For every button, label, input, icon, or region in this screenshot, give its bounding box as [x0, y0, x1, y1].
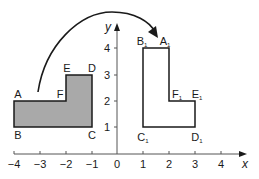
vertex-label-f: F — [57, 88, 64, 100]
y-axis: 1 2 3 4 y — [104, 20, 120, 154]
vertex-label-e: E — [63, 62, 70, 74]
y-tick-label: 1 — [104, 121, 110, 133]
x-tick-label: 4 — [218, 158, 224, 170]
x-tick-label: 1 — [140, 158, 146, 170]
vertex-label-d: D — [88, 62, 96, 74]
vertex-label-a1: A1 — [160, 35, 171, 48]
x-tick-label: −1 — [86, 158, 99, 170]
y-tick-label: 3 — [104, 69, 110, 81]
x-tick-label: −3 — [34, 158, 47, 170]
vertex-label-c: C — [88, 129, 96, 141]
transformation-arrow — [38, 12, 158, 92]
x-axis: −4 −3 −2 −1 0 1 2 3 4 x — [8, 151, 249, 171]
vertex-label-e1: E1 — [192, 88, 203, 101]
y-axis-label: y — [104, 20, 112, 34]
origin-label: 0 — [114, 158, 120, 170]
y-tick-label: 2 — [104, 95, 110, 107]
x-axis-label: x — [241, 157, 249, 171]
image-shape — [143, 48, 195, 127]
vertex-label-d1: D1 — [191, 131, 203, 144]
original-shape — [14, 75, 92, 127]
vertex-label-b: B — [14, 129, 21, 141]
x-tick-label: 3 — [192, 158, 198, 170]
x-tick-label: −4 — [8, 158, 21, 170]
y-axis-arrow-icon — [114, 23, 120, 31]
vertex-label-c1: C1 — [137, 131, 149, 144]
vertex-label-b1: B1 — [137, 35, 148, 48]
vertex-label-a: A — [14, 88, 22, 100]
y-tick-label: 4 — [104, 42, 110, 54]
x-tick-label: −2 — [60, 158, 73, 170]
vertex-label-f1: F1 — [172, 88, 183, 101]
coordinate-diagram: −4 −3 −2 −1 0 1 2 3 4 x 1 2 3 4 y A B C … — [0, 0, 259, 179]
x-tick-label: 2 — [166, 158, 172, 170]
